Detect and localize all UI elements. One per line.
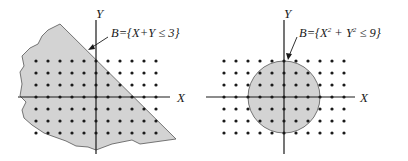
lattice-point <box>330 71 333 74</box>
lattice-point <box>82 107 85 110</box>
lattice-point <box>258 119 261 122</box>
lattice-point <box>294 131 297 134</box>
lattice-point <box>130 71 133 74</box>
lattice-point <box>118 83 121 86</box>
lattice-point <box>130 131 133 134</box>
lattice-point <box>234 83 237 86</box>
lattice-point <box>306 131 309 134</box>
lattice-point <box>306 107 309 110</box>
x-axis-label-right: X <box>359 90 369 105</box>
lattice-point <box>58 119 61 122</box>
x-axis-label-left: X <box>176 90 186 105</box>
lattice-point <box>46 119 49 122</box>
lattice-point <box>270 83 273 86</box>
lattice-point <box>106 131 109 134</box>
lattice-point <box>34 119 37 122</box>
lattice-point <box>234 59 237 62</box>
lattice-point <box>330 131 333 134</box>
lattice-point <box>106 59 109 62</box>
lattice-point <box>258 131 261 134</box>
lattice-point <box>234 107 237 110</box>
lattice-point <box>34 131 37 134</box>
lattice-point <box>330 59 333 62</box>
lattice-point <box>234 131 237 134</box>
y-axis-label-right: Y <box>284 6 293 21</box>
lattice-point <box>318 59 321 62</box>
lattice-point <box>46 83 49 86</box>
lattice-point <box>258 71 261 74</box>
lattice-point <box>246 107 249 110</box>
lattice-point <box>142 107 145 110</box>
lattice-point <box>270 107 273 110</box>
lattice-point <box>118 59 121 62</box>
lattice-point <box>118 131 121 134</box>
lattice-point <box>130 59 133 62</box>
lattice-point <box>270 119 273 122</box>
lattice-point <box>142 131 145 134</box>
lattice-point <box>82 119 85 122</box>
lattice-point <box>246 119 249 122</box>
lattice-point <box>82 131 85 134</box>
lattice-point <box>318 71 321 74</box>
lattice-point <box>106 107 109 110</box>
lattice-point <box>154 119 157 122</box>
pointer-arrow-right <box>289 37 297 56</box>
lattice-point <box>154 107 157 110</box>
lattice-point <box>154 59 157 62</box>
lattice-point <box>318 119 321 122</box>
lattice-point <box>318 107 321 110</box>
lattice-point <box>294 107 297 110</box>
lattice-point <box>222 71 225 74</box>
lattice-point <box>118 107 121 110</box>
lattice-point <box>222 131 225 134</box>
lattice-point <box>342 71 345 74</box>
lattice-point <box>142 59 145 62</box>
lattice-point <box>270 59 273 62</box>
lattice-point <box>82 71 85 74</box>
lattice-point <box>46 71 49 74</box>
lattice-point <box>34 59 37 62</box>
diagram-canvas: X Y B={X+Y ≤ 3} X Y B={X2 + Y2 ≤ 9} <box>0 0 408 161</box>
lattice-point <box>130 107 133 110</box>
lattice-point <box>154 131 157 134</box>
lattice-point <box>330 107 333 110</box>
lattice-point <box>70 71 73 74</box>
lattice-point <box>258 107 261 110</box>
lattice-point <box>342 131 345 134</box>
lattice-point <box>34 71 37 74</box>
lattice-point <box>246 131 249 134</box>
lattice-point <box>258 59 261 62</box>
lattice-point <box>318 83 321 86</box>
lattice-point <box>330 83 333 86</box>
lattice-point <box>246 83 249 86</box>
lattice-point <box>46 131 49 134</box>
lattice-point <box>222 119 225 122</box>
lattice-point <box>142 119 145 122</box>
lattice-point <box>306 119 309 122</box>
lattice-point <box>246 59 249 62</box>
lattice-point <box>46 107 49 110</box>
lattice-point <box>70 107 73 110</box>
lattice-point <box>258 83 261 86</box>
lattice-point <box>142 83 145 86</box>
set-label-left: B={X+Y ≤ 3} <box>111 26 179 40</box>
lattice-point <box>82 59 85 62</box>
lattice-point <box>58 59 61 62</box>
lattice-point <box>82 83 85 86</box>
arrowhead-right <box>286 53 292 60</box>
lattice-point <box>342 107 345 110</box>
arrowhead-left <box>88 44 95 50</box>
lattice-point <box>70 59 73 62</box>
lattice-point <box>270 71 273 74</box>
lattice-point <box>58 83 61 86</box>
lattice-point <box>222 107 225 110</box>
half-plane-region <box>20 24 176 150</box>
half-plane-diagram: X Y B={X+Y ≤ 3} <box>18 6 186 154</box>
lattice-point <box>330 119 333 122</box>
lattice-point <box>118 119 121 122</box>
lattice-point <box>342 119 345 122</box>
lattice-point <box>342 83 345 86</box>
lattice-point <box>294 71 297 74</box>
lattice-point <box>306 59 309 62</box>
lattice-point <box>70 83 73 86</box>
